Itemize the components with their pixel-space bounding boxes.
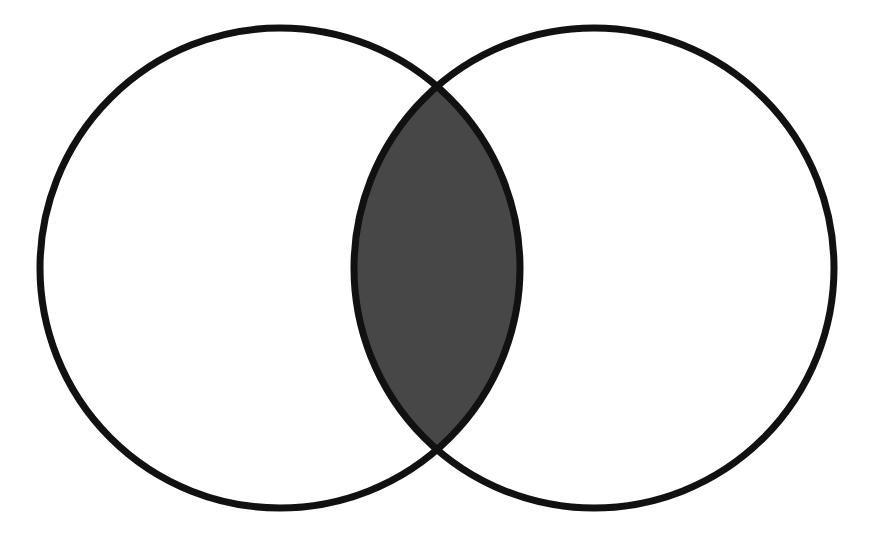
venn-diagram-figure: [0, 0, 874, 542]
venn-diagram-canvas: [0, 0, 874, 542]
